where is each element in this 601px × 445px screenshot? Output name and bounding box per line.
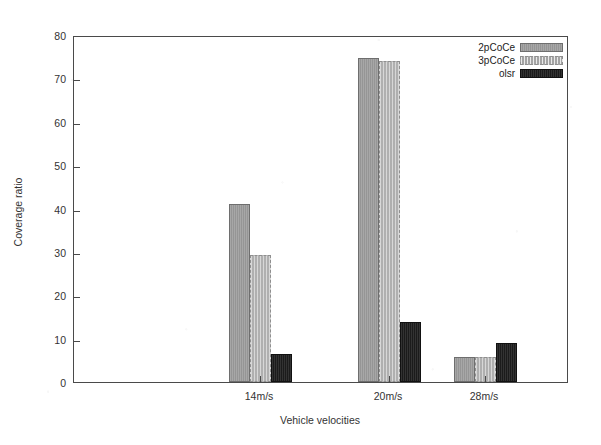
x-axis-tick xyxy=(485,376,486,382)
legend-item-2pcoce: 2pCoCe xyxy=(463,41,563,53)
y-axis-tick-label: 40 xyxy=(36,204,66,216)
y-axis-tick xyxy=(74,341,80,342)
legend-item-3pcoce: 3pCoCe xyxy=(463,54,563,66)
bar-2pcoce-14mpers xyxy=(229,204,250,382)
bar-3pcoce-14mpers xyxy=(250,255,271,382)
legend-swatch-olsr xyxy=(520,69,563,78)
y-axis-tick xyxy=(74,211,80,212)
y-axis-tick-label: 20 xyxy=(36,290,66,302)
y-axis-tick-label: 50 xyxy=(36,160,66,172)
y-axis-tick-label: 70 xyxy=(36,73,66,85)
bar-olsr-14mpers xyxy=(271,354,292,382)
y-axis-tick-label: 10 xyxy=(36,334,66,346)
x-axis-title: Vehicle velocities xyxy=(280,414,360,426)
bar-olsr-20mpers xyxy=(400,322,421,382)
y-axis-tick-label: 30 xyxy=(36,247,66,259)
bar-3pcoce-20mpers xyxy=(379,61,400,382)
y-axis-tick xyxy=(74,254,80,255)
x-axis-tick xyxy=(260,376,261,382)
x-axis-tick-label: 14m/s xyxy=(245,390,274,402)
y-axis-tick-label: 80 xyxy=(36,30,66,42)
y-axis-tick xyxy=(74,124,80,125)
legend-label-olsr: olsr xyxy=(499,68,515,79)
chart-legend: 2pCoCe 3pCoCe olsr xyxy=(463,41,563,80)
y-axis-tick-label: 60 xyxy=(36,117,66,129)
x-axis-tick xyxy=(389,376,390,382)
legend-label-2pcoce: 2pCoCe xyxy=(478,42,515,53)
x-axis-tick-label: 20m/s xyxy=(374,390,403,402)
legend-item-olsr: olsr xyxy=(463,67,563,79)
x-axis-tick-label: 28m/s xyxy=(470,390,499,402)
y-axis-tick xyxy=(74,297,80,298)
y-axis-title: Coverage ratio xyxy=(12,178,24,247)
bar-2pcoce-20mpers xyxy=(358,58,379,382)
legend-swatch-2pcoce xyxy=(520,43,563,52)
legend-swatch-3pcoce xyxy=(520,56,563,65)
y-axis-tick-label: 0 xyxy=(36,377,66,389)
y-axis-tick xyxy=(74,167,80,168)
legend-label-3pcoce: 3pCoCe xyxy=(478,55,515,66)
y-axis-tick xyxy=(74,80,80,81)
plot-area xyxy=(73,36,568,383)
bar-olsr-28mpers xyxy=(496,343,517,382)
bar-2pcoce-28mpers xyxy=(454,357,475,382)
